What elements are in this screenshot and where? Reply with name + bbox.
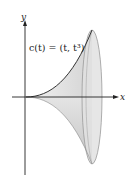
curve-label: c(t) = (t, t³) — [29, 42, 84, 53]
x-axis-label: x — [120, 92, 125, 102]
x-axis-arrow-icon — [113, 95, 119, 99]
surface-of-revolution-diagram: y x c(t) = (t, t³) — [0, 0, 135, 191]
y-axis-label: y — [20, 12, 27, 22]
